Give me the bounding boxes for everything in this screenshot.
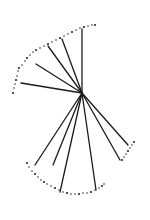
arc-dot (90, 191, 92, 193)
arc-dot (43, 45, 45, 47)
arc-dot (12, 92, 14, 94)
arc-dot (98, 187, 100, 189)
arc-dot (50, 185, 52, 187)
arc-dot (35, 49, 37, 51)
arc-dot (54, 187, 56, 189)
arc-dot (59, 37, 61, 39)
arc-dot (86, 192, 88, 194)
arc-dot (28, 166, 30, 168)
arc-dot (74, 193, 76, 195)
arc-dot (131, 144, 133, 146)
arc-dot (26, 162, 28, 164)
arc-dot (31, 170, 33, 172)
arc-dot (21, 64, 23, 66)
ray-line (82, 93, 120, 160)
arc-dot (87, 25, 89, 27)
arc-dot (121, 159, 123, 161)
arc-dot (103, 183, 105, 185)
ray-group (21, 29, 128, 192)
arc-dot (125, 153, 127, 155)
arc-dot (47, 43, 49, 45)
arc-dot (91, 24, 93, 26)
ray-line (21, 83, 82, 93)
arc-dot (16, 75, 18, 77)
ray-line (62, 39, 82, 93)
ray-line (48, 46, 82, 93)
arc-dot (15, 79, 17, 81)
arc-dot (75, 29, 77, 31)
arc-dot (46, 183, 48, 185)
arc-dot (40, 179, 42, 181)
arc-dot (13, 87, 15, 89)
arc-dot (55, 39, 57, 41)
arc-dot (51, 41, 53, 43)
arc-dot (14, 83, 16, 85)
arc-dot (78, 193, 80, 195)
arc-dot (63, 35, 65, 37)
arc-dot (24, 60, 26, 62)
arc-dot (101, 185, 103, 187)
arc-dot (123, 156, 125, 158)
arc-dot (94, 24, 96, 26)
dotted-arc-group (12, 24, 135, 195)
arc-dot (32, 51, 34, 53)
radial-fan-diagram (0, 0, 150, 220)
arc-dot (17, 70, 19, 72)
arc-dot (82, 192, 84, 194)
arc-dot (58, 189, 60, 191)
arc-dot (62, 191, 64, 193)
arc-dot (127, 150, 129, 152)
arc-dot (67, 33, 69, 35)
ray-line (53, 93, 82, 165)
arc-dot (39, 47, 41, 49)
arc-dot (37, 176, 39, 178)
ray-line (60, 93, 82, 192)
right-arc (121, 141, 135, 161)
arc-dot (26, 57, 28, 59)
arc-dot (129, 147, 131, 149)
arc-dot (79, 27, 81, 29)
arc-dot (34, 173, 36, 175)
arc-dot (29, 54, 31, 56)
arc-dot (71, 31, 73, 33)
arc-dot (18, 67, 20, 69)
arc-dot (133, 141, 135, 143)
arc-dot (83, 26, 85, 28)
ray-line (82, 93, 96, 190)
arc-dot (66, 192, 68, 194)
arc-dot (94, 189, 96, 191)
arc-dot (70, 193, 72, 195)
ray-line (35, 93, 82, 165)
arc-dot (43, 181, 45, 183)
